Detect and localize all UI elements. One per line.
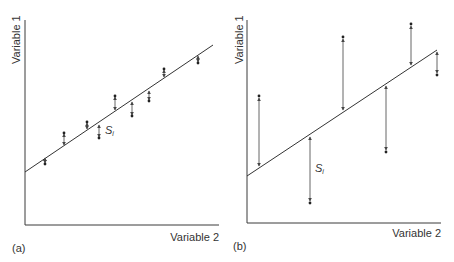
residuals xyxy=(45,56,198,163)
regression-residuals-figure: Si Variable 1 Variable 2 (a) xyxy=(0,0,454,262)
panel-label: (a) xyxy=(12,242,25,254)
regression-line xyxy=(247,50,437,176)
y-axis-label: Variable 1 xyxy=(233,15,245,64)
residual-label: Si xyxy=(105,124,114,137)
residual-label: Si xyxy=(315,162,324,175)
panel-label: (b) xyxy=(233,240,246,252)
x-axis-label: Variable 2 xyxy=(392,227,441,239)
x-axis-label: Variable 2 xyxy=(170,231,219,243)
residuals xyxy=(259,26,437,201)
regression-line xyxy=(25,45,213,172)
panel-a: Si Variable 1 Variable 2 (a) xyxy=(10,15,219,254)
panel-b: Si Variable 1 Variable 2 (b) xyxy=(233,15,441,252)
data-points xyxy=(44,62,200,166)
y-axis-label: Variable 1 xyxy=(10,15,22,64)
